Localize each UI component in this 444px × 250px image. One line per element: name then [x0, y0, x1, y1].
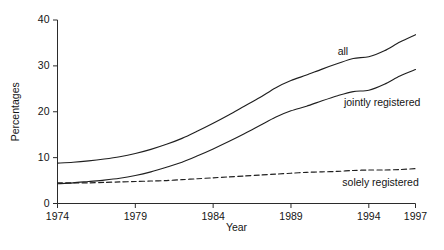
x-tick-label: 1994: [357, 210, 381, 222]
x-tick-label: 1984: [201, 210, 225, 222]
y-tick-label: 40: [38, 13, 50, 25]
series-label-jointly-registered: jointly registered: [343, 96, 421, 108]
x-tick-label: 1997: [404, 210, 428, 222]
y-tick-label: 20: [38, 105, 50, 117]
x-axis-title: Year: [226, 221, 248, 233]
y-tick-label: 0: [44, 197, 50, 209]
x-tick-label: 1989: [279, 210, 303, 222]
chart-canvas: 010203040197419791984198919941997YearPer…: [0, 0, 444, 250]
x-tick-label: 1974: [46, 210, 70, 222]
y-tick-label: 30: [38, 59, 50, 71]
series-label-all: all: [338, 45, 349, 57]
line-chart: 010203040197419791984198919941997YearPer…: [0, 0, 444, 250]
y-axis-title: Percentages: [9, 82, 21, 141]
x-tick-label: 1979: [124, 210, 148, 222]
y-tick-label: 10: [38, 151, 50, 163]
series-line-jointly-registered: [58, 70, 416, 184]
series-label-solely-registered: solely registered: [342, 176, 419, 188]
